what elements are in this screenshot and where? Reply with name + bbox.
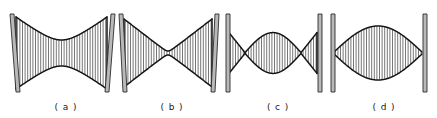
panel-b-caption: ( b ) <box>161 102 184 112</box>
panel-c-caption: ( c ) <box>267 102 289 112</box>
resonator-mode-figure: ( a )( b )( c )( d ) <box>0 0 437 118</box>
panel-a-caption: ( a ) <box>55 102 78 112</box>
panel-c-right-mirror <box>318 14 322 92</box>
panel-d-left-mirror <box>331 14 335 92</box>
panel-d-right-mirror <box>423 14 427 92</box>
figure-canvas: ( a )( b )( c )( d ) <box>0 0 437 118</box>
panel-c-left-mirror <box>226 14 230 92</box>
panel-d-caption: ( d ) <box>373 102 396 112</box>
